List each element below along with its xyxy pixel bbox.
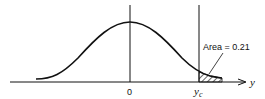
area-annotation: Area = 0.21 — [203, 42, 250, 52]
bell-curve — [36, 22, 222, 79]
x-axis-label: y — [249, 76, 255, 88]
normal-distribution-diagram: Area = 0.21 0 yc y — [0, 0, 265, 99]
critical-value-label: yc — [193, 85, 203, 99]
center-tick-label: 0 — [127, 87, 132, 97]
area-leader-line — [209, 53, 223, 74]
